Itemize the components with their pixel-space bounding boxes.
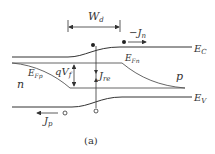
conduction-band-line xyxy=(12,47,192,57)
band-diagram-svg: Wd −Jn EC EFn EFp qVf Jre EV Jp n p (a) xyxy=(0,0,215,154)
hole-circle xyxy=(94,109,98,113)
electron-current-label: −Jn xyxy=(129,27,146,40)
electron-dot xyxy=(122,40,126,44)
forward-voltage-label: qVf xyxy=(55,66,73,79)
n-region-label: n xyxy=(17,78,24,91)
hole-current-label: Jp xyxy=(42,115,53,128)
band-diagram: Wd −Jn EC EFn EFp qVf Jre EV Jp n p (a) xyxy=(0,0,215,154)
p-region-label: p xyxy=(176,70,183,83)
electron-quasi-fermi-label: EFn xyxy=(124,53,140,64)
recombination-current-label: Jre xyxy=(97,70,111,83)
svg-text:Wd: Wd xyxy=(88,10,104,24)
valence-band-label: EV xyxy=(193,92,207,105)
electron-dot xyxy=(91,43,95,47)
valence-band-line xyxy=(12,97,192,107)
figure-caption: (a) xyxy=(84,135,98,146)
hole-circle xyxy=(63,111,67,115)
conduction-band-label: EC xyxy=(193,43,207,56)
depletion-width-bracket: Wd xyxy=(68,10,120,32)
